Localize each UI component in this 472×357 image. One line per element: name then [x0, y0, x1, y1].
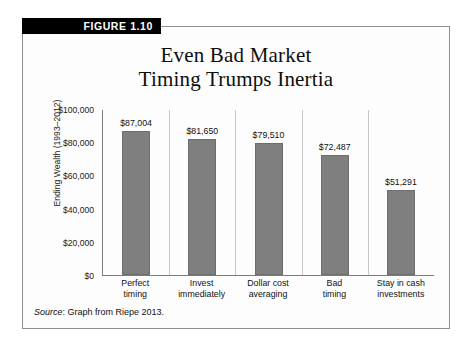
y-axis-tick-0: $0	[84, 271, 94, 281]
x-axis-category-1: Investimmediately	[168, 278, 234, 300]
bar	[122, 131, 150, 275]
bar-series: $87,004$81,650$79,510$72,487$51,291	[103, 110, 434, 275]
bar-group: $72,487	[302, 110, 368, 275]
bar-group: $87,004	[103, 110, 169, 275]
source-label: Source	[34, 307, 63, 317]
bar-value-label: $81,650	[186, 126, 218, 136]
bar-group: $81,650	[169, 110, 235, 275]
chart-title: Even Bad Market Timing Trumps Inertia	[34, 44, 438, 91]
category-label-line: averaging	[235, 289, 301, 300]
bar-value-label: $87,004	[120, 118, 152, 128]
bar-group: $51,291	[368, 110, 434, 275]
bar	[188, 139, 216, 275]
plot-area: $87,004$81,650$79,510$72,487$51,291	[102, 110, 434, 276]
bar-value-label: $72,487	[319, 142, 351, 152]
y-axis-tick-4: $80,000	[63, 138, 94, 148]
x-axis-category-0: Perfecttiming	[102, 278, 168, 300]
figure-root: FIGURE 1.10 Even Bad Market Timing Trump…	[0, 0, 472, 357]
y-axis-tick-5: $100,000	[58, 105, 94, 115]
bar-group: $79,510	[235, 110, 301, 275]
bar	[387, 190, 415, 275]
category-label-line: Invest	[168, 278, 234, 289]
category-label-line: Stay in cash	[368, 278, 434, 289]
figure-number-label: FIGURE 1.10	[83, 20, 153, 32]
category-label-line: immediately	[168, 289, 234, 300]
chart-title-line-1: Even Bad Market	[34, 44, 438, 68]
bar	[255, 143, 283, 275]
y-axis-tick-labels: $0$20,000$40,000$60,000$80,000$100,000	[42, 110, 98, 276]
y-axis-tick-3: $60,000	[63, 171, 94, 181]
y-axis-tick-2: $40,000	[63, 205, 94, 215]
category-label-line: investments	[368, 289, 434, 300]
plot-wrapper: Ending Wealth (1993–2012) $0$20,000$40,0…	[26, 110, 446, 286]
source-note: Source: Graph from Riepe 2013.	[34, 307, 164, 317]
category-label-line: timing	[102, 289, 168, 300]
source-citation: : Graph from Riepe 2013.	[63, 307, 165, 317]
bar-value-label: $79,510	[253, 130, 285, 140]
chart-title-line-2: Timing Trumps Inertia	[34, 68, 438, 92]
x-axis-category-3: Badtiming	[301, 278, 367, 300]
category-label-line: Dollar cost	[235, 278, 301, 289]
bar	[321, 155, 349, 275]
bar-value-label: $51,291	[385, 177, 417, 187]
category-label-line: timing	[301, 289, 367, 300]
figure-number-tab: FIGURE 1.10	[22, 18, 161, 34]
y-axis-tick-1: $20,000	[63, 238, 94, 248]
x-axis-category-4: Stay in cashinvestments	[368, 278, 434, 300]
category-label-line: Bad	[301, 278, 367, 289]
x-axis-category-labels: PerfecttimingInvestimmediatelyDollar cos…	[102, 278, 434, 300]
category-label-line: Perfect	[102, 278, 168, 289]
x-axis-category-2: Dollar costaveraging	[235, 278, 301, 300]
